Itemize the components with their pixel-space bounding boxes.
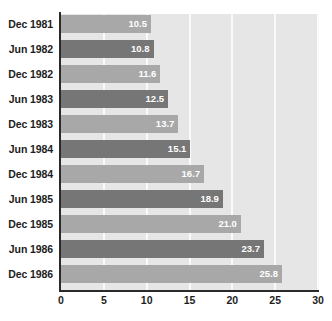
bar: 25.8: [61, 265, 282, 283]
x-tick-label: 5: [101, 294, 107, 306]
category-label: Jun 1982: [9, 40, 53, 58]
bar-value-label: 11.6: [138, 65, 156, 83]
y-axis-line: [59, 12, 61, 292]
bar: 16.7: [61, 165, 204, 183]
bar: 13.7: [61, 115, 178, 133]
category-label: Dec 1982: [8, 65, 53, 83]
bar-value-label: 21.0: [218, 215, 237, 233]
category-label: Jun 1986: [9, 240, 53, 258]
x-tick-label: 0: [58, 294, 64, 306]
x-axis-tick-labels: 051015202530: [0, 294, 332, 314]
bar: 12.5: [61, 90, 168, 108]
bar: 10.8: [61, 40, 154, 58]
category-label: Dec 1984: [8, 165, 53, 183]
x-tick-label: 30: [312, 294, 324, 306]
bar-value-label: 10.8: [131, 40, 150, 58]
bar-value-label: 10.5: [128, 15, 147, 33]
bar-value-label: 12.5: [146, 90, 165, 108]
bar: 15.1: [61, 140, 190, 158]
plot-area: 10.510.811.612.513.715.116.718.921.023.7…: [61, 14, 318, 290]
bar: 23.7: [61, 240, 264, 258]
category-label: Dec 1985: [8, 215, 53, 233]
bar-value-label: 18.9: [200, 190, 219, 208]
category-label: Jun 1984: [9, 140, 53, 158]
bar: 18.9: [61, 190, 223, 208]
bar-value-label: 13.7: [156, 115, 175, 133]
x-tick-label: 15: [184, 294, 196, 306]
bar-value-label: 23.7: [242, 240, 261, 258]
bar: 10.5: [61, 15, 151, 33]
x-tick-label: 25: [269, 294, 281, 306]
category-label: Jun 1983: [9, 90, 53, 108]
bar-chart: Dec 1981Jun 1982Dec 1982Jun 1983Dec 1983…: [0, 0, 332, 321]
bar: 11.6: [61, 65, 160, 83]
category-label: Dec 1983: [8, 115, 53, 133]
category-label: Dec 1981: [8, 15, 53, 33]
bar-value-label: 15.1: [168, 140, 187, 158]
x-tick-label: 10: [141, 294, 153, 306]
bar-value-label: 25.8: [260, 265, 279, 283]
bar-series: 10.510.811.612.513.715.116.718.921.023.7…: [61, 14, 318, 290]
category-label: Dec 1986: [8, 265, 53, 283]
x-tick-label: 20: [226, 294, 238, 306]
bar: 21.0: [61, 215, 241, 233]
x-axis-line: [59, 290, 319, 292]
category-label: Jun 1985: [9, 190, 53, 208]
bar-value-label: 16.7: [182, 165, 201, 183]
category-axis: Dec 1981Jun 1982Dec 1982Jun 1983Dec 1983…: [0, 14, 56, 290]
